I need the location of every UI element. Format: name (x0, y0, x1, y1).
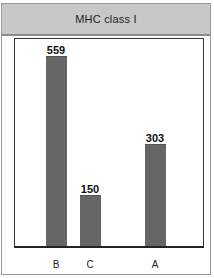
chart-header: MHC class I (2, 4, 210, 36)
value-label-b: 559 (36, 44, 76, 56)
category-label-a: A (140, 259, 170, 270)
category-label-b: B (41, 259, 71, 270)
category-label-c: C (75, 259, 105, 270)
bar-a (145, 144, 166, 246)
value-label-a: 303 (135, 132, 175, 144)
chart-title: MHC class I (75, 13, 136, 25)
bar-b (46, 56, 67, 246)
plot-area (14, 38, 204, 248)
value-label-c: 150 (70, 183, 110, 195)
bar-c (80, 195, 101, 246)
